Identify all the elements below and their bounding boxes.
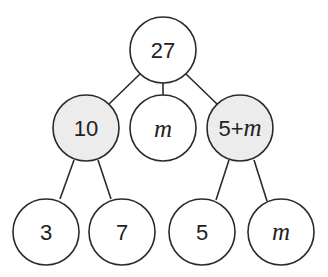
label-7: 7 (116, 220, 128, 245)
edge-root-5m (186, 74, 217, 104)
label-m-var: m (244, 114, 262, 141)
edge-root-10 (109, 74, 140, 104)
label-m: m (154, 115, 172, 142)
edge-5m-m (254, 160, 267, 201)
label-5-plus-m: 5+m (218, 114, 261, 141)
edge-5m-5 (216, 160, 229, 200)
edge-10-7 (98, 160, 111, 199)
label-root: 27 (151, 38, 175, 63)
label-5-plus: 5+ (218, 116, 243, 141)
label-3: 3 (40, 220, 52, 245)
label-10: 10 (74, 116, 98, 141)
edge-10-3 (60, 160, 74, 199)
label-5: 5 (196, 220, 208, 245)
label-m-bottom: m (272, 218, 290, 245)
factor-tree-diagram: 27 10 m 5+m 3 7 5 m (0, 0, 328, 277)
